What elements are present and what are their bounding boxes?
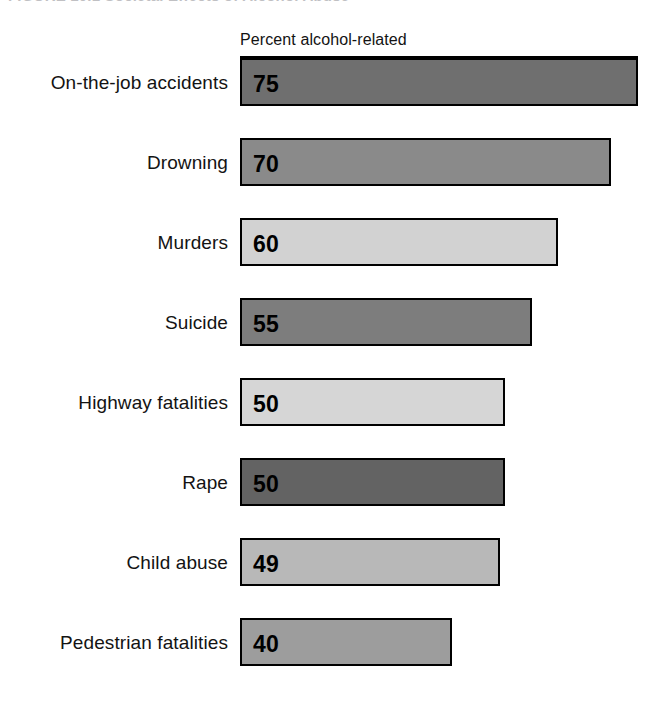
bar: 50 — [240, 458, 505, 506]
bar-category-label: Drowning — [0, 138, 228, 188]
bar: 40 — [240, 618, 452, 666]
bar-row: Highway fatalities50 — [0, 378, 647, 428]
bar-value-label: 49 — [253, 540, 279, 588]
bar-row: Pedestrian fatalities40 — [0, 618, 647, 668]
bar-value-label: 75 — [253, 60, 279, 108]
bar-category-label: Highway fatalities — [0, 378, 228, 428]
bar-row: Rape50 — [0, 458, 647, 508]
bar: 60 — [240, 218, 558, 266]
bar: 75 — [240, 58, 638, 106]
bar-row: Drowning70 — [0, 138, 647, 188]
bar: 49 — [240, 538, 500, 586]
horizontal-bar-chart: On-the-job accidents75Drowning70Murders6… — [0, 0, 647, 705]
bar-row: Suicide55 — [0, 298, 647, 348]
bar-category-label: On-the-job accidents — [0, 58, 228, 108]
bar-category-label: Rape — [0, 458, 228, 508]
bar-category-label: Murders — [0, 218, 228, 268]
bar-value-label: 50 — [253, 460, 279, 508]
bar-value-label: 50 — [253, 380, 279, 428]
bar-category-label: Pedestrian fatalities — [0, 618, 228, 668]
bar-value-label: 70 — [253, 140, 279, 188]
bar-value-label: 40 — [253, 620, 279, 668]
bar-value-label: 60 — [253, 220, 279, 268]
bar: 50 — [240, 378, 505, 426]
bar: 70 — [240, 138, 611, 186]
bar-row: On-the-job accidents75 — [0, 58, 647, 108]
bar-value-label: 55 — [253, 300, 279, 348]
bar-row: Child abuse49 — [0, 538, 647, 588]
bar-row: Murders60 — [0, 218, 647, 268]
bar-category-label: Child abuse — [0, 538, 228, 588]
bar-category-label: Suicide — [0, 298, 228, 348]
bar: 55 — [240, 298, 532, 346]
